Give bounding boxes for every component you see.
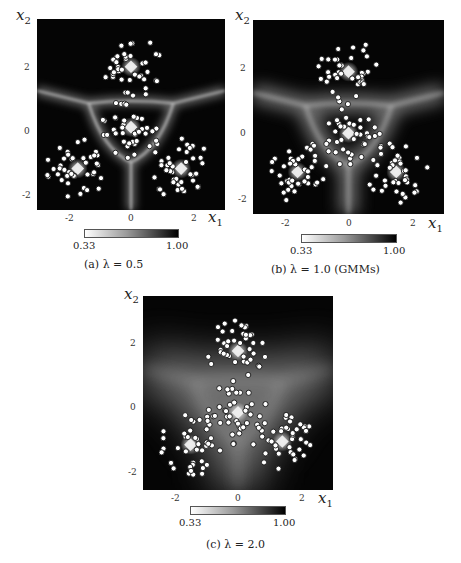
x-tick: 2: [410, 218, 416, 228]
x-tick: -2: [171, 493, 180, 503]
colorbar-min-label: 0.33: [290, 245, 312, 256]
y-axis-label: x2: [16, 6, 31, 26]
x-tick: 0: [128, 213, 134, 223]
caption-a: (a) λ = 0.5: [84, 258, 143, 271]
y-tick: 0: [24, 126, 30, 136]
caption-c: (c) λ = 2.0: [206, 538, 265, 551]
x-tick: -2: [281, 218, 290, 228]
y-tick: 0: [130, 402, 136, 412]
colorbar-c: [190, 506, 286, 515]
x-tick: 2: [299, 493, 305, 503]
heatmap-plot-b: [253, 20, 444, 214]
y-axis-label: x2: [235, 6, 250, 26]
y-tick: -2: [128, 467, 137, 477]
colorbar-max-label: 1.00: [383, 245, 405, 256]
colorbar-max-label: 1.00: [273, 517, 295, 528]
colorbar-min-label: 0.33: [73, 240, 95, 251]
y-tick: 0: [240, 128, 246, 138]
colorbar-b: [301, 234, 397, 243]
x-axis-label: x1: [318, 489, 333, 509]
y-tick: -2: [238, 194, 247, 204]
colorbar-max-label: 1.00: [166, 240, 188, 251]
x-axis-label: x1: [428, 214, 443, 234]
x-tick: -2: [65, 213, 74, 223]
colorbar-min-label: 0.33: [179, 517, 201, 528]
x-tick: 2: [191, 213, 197, 223]
heatmap-plot-c: [143, 296, 333, 490]
y-tick: 2: [240, 63, 246, 73]
heatmap-svg: [253, 20, 444, 214]
colorbar-a: [84, 229, 179, 238]
y-tick: -2: [22, 190, 31, 200]
x-tick: 0: [235, 493, 241, 503]
y-tick: 2: [130, 338, 136, 348]
heatmap-plot-a: [37, 19, 225, 210]
caption-b: (b) λ = 1.0 (GMMs): [271, 263, 380, 276]
y-axis-label: x2: [124, 285, 139, 305]
x-axis-label: x1: [208, 208, 223, 228]
y-tick: 2: [24, 62, 30, 72]
heatmap-svg: [143, 296, 333, 490]
x-tick: 0: [346, 218, 352, 228]
heatmap-svg: [37, 19, 225, 210]
